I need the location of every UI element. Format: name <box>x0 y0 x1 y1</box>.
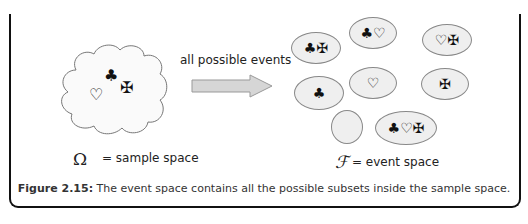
event-space-label: = event space <box>352 155 439 169</box>
event-set: ♡✠ <box>422 24 472 56</box>
figure-number: Figure 2.15: <box>18 182 93 195</box>
event-set: ♣✠ <box>291 32 341 64</box>
arrow-label: all possible events <box>180 53 291 67</box>
event-set: ♡ <box>349 67 397 99</box>
figure-caption: Figure 2.15: The event space contains al… <box>0 182 528 195</box>
maltese-cross-icon: ✠ <box>120 80 133 96</box>
sample-space-cloud <box>56 40 170 136</box>
event-space-symbol: ℱ <box>335 152 348 172</box>
event-set: ✠ <box>421 68 469 100</box>
right-arrow-icon <box>190 74 274 98</box>
caption-text: The event space contains all the possibl… <box>93 182 510 195</box>
event-set: ♣♡✠ <box>375 111 437 145</box>
empty-set <box>331 110 363 144</box>
heart-icon: ♡ <box>89 87 103 103</box>
club-icon: ♣ <box>104 68 118 84</box>
event-set: ♣ <box>294 76 344 110</box>
sample-space-label: = sample space <box>102 151 199 165</box>
omega-symbol: Ω <box>73 149 87 169</box>
event-set: ♣♡ <box>349 17 397 49</box>
